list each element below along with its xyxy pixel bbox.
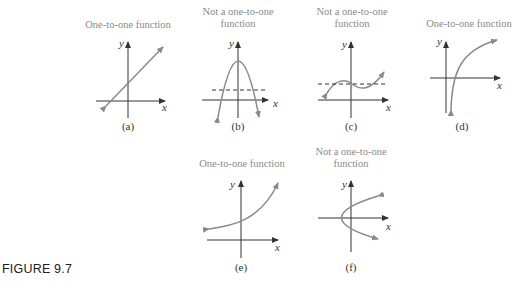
panel-f-graph xyxy=(318,181,388,252)
panel-f-title: Not a one-to-onefunction xyxy=(315,146,386,170)
figure-graphics xyxy=(0,0,532,291)
panel-a-graph xyxy=(96,42,165,118)
panel-f-y-label: y xyxy=(342,178,347,190)
panel-e-graph xyxy=(207,181,278,258)
panel-d-caption: (d) xyxy=(456,120,469,132)
panel-c-x-label: x xyxy=(386,101,391,113)
panel-c-y-label: y xyxy=(342,38,347,50)
panel-e-x-label: x xyxy=(275,241,280,253)
panel-b-graph xyxy=(202,42,268,118)
panel-b-caption: (b) xyxy=(232,120,245,132)
panel-d-graph xyxy=(430,40,500,113)
panel-e-y-label: y xyxy=(230,178,235,190)
panel-e-caption: (e) xyxy=(235,261,247,273)
panel-c-graph xyxy=(318,42,388,118)
panel-b-y-label: y xyxy=(229,37,234,49)
panel-a-x-label: x xyxy=(162,101,167,113)
panel-a-title: One-to-one function xyxy=(85,19,170,31)
panel-a-caption: (a) xyxy=(122,120,134,132)
panel-d-x-label: x xyxy=(497,79,502,91)
panel-d-y-label: y xyxy=(437,35,442,47)
panel-b-x-label: x xyxy=(273,97,278,109)
panel-f-x-label: x xyxy=(386,220,391,232)
panel-b-title: Not a one-to-onefunction xyxy=(202,6,273,30)
panel-c-caption: (c) xyxy=(345,120,357,132)
panel-a-y-label: y xyxy=(119,37,124,49)
panel-f-caption: (f) xyxy=(346,261,357,273)
panel-c-title: Not a one-to-onefunction xyxy=(316,6,387,30)
panel-e-title: One-to-one function xyxy=(199,158,284,170)
panel-d-title: One-to-one function xyxy=(426,18,511,30)
figure-label: FIGURE 9.7 xyxy=(2,262,72,276)
